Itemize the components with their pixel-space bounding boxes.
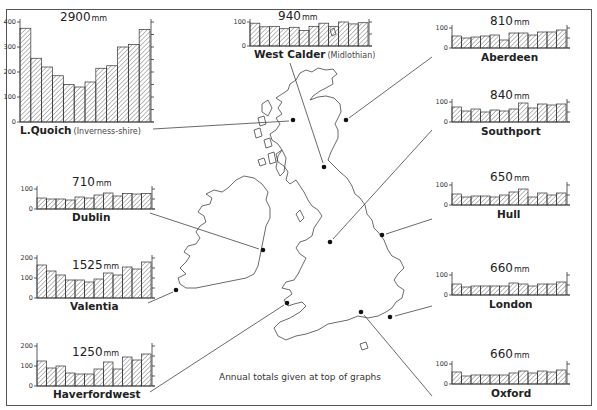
station-label-westcalder: West Calder(Midlothian): [254, 48, 375, 60]
station-label-oxford: Oxford: [491, 387, 531, 399]
station-name: Dublin: [72, 211, 110, 223]
unit-label: mm: [302, 13, 318, 22]
annual-total-oxford: 660mm: [490, 347, 530, 361]
unit-label: mm: [514, 18, 530, 27]
station-label-dublin: Dublin: [72, 211, 110, 223]
annual-total-value: 2900: [60, 10, 91, 24]
annual-total-value: 940: [278, 9, 301, 23]
dot-aberdeen: [344, 118, 349, 123]
annual-total-aberdeen: 810mm: [490, 14, 530, 28]
unit-label: mm: [514, 174, 530, 183]
leader-london: [395, 306, 432, 316]
station-name: London: [489, 298, 533, 310]
leader-aberdeen: [349, 57, 432, 118]
station-name: West Calder: [254, 48, 325, 60]
annual-total-hull: 650mm: [490, 170, 530, 184]
annual-total-westcalder: 940mm: [278, 9, 318, 23]
leader-hull: [386, 219, 432, 234]
annual-total-value: 810: [490, 14, 513, 28]
annual-total-southport: 840mm: [490, 88, 530, 102]
annual-total-value: 660: [490, 261, 513, 275]
leader-southport: [333, 130, 432, 239]
station-region: (Inverness-shire): [74, 127, 141, 136]
annual-total-value: 710: [72, 175, 95, 189]
station-label-london: London: [489, 298, 533, 310]
unit-label: mm: [514, 92, 530, 101]
leader-valentia: [148, 292, 173, 303]
station-name: Southport: [481, 125, 541, 137]
leader-lquoich: [153, 121, 289, 129]
station-name: Valentia: [70, 300, 119, 312]
station-name: Haverfordwest: [53, 388, 141, 400]
station-name: Oxford: [491, 387, 531, 399]
annual-total-lquoich: 2900mm: [60, 10, 107, 24]
annual-total-london: 660mm: [490, 261, 530, 275]
unit-label: mm: [96, 179, 112, 188]
station-label-lquoich: L.Quoich(Inverness-shire): [20, 124, 141, 136]
unit-label: mm: [104, 349, 120, 358]
dot-haverfordwest: [285, 301, 290, 306]
unit-label: mm: [92, 14, 108, 23]
annual-total-value: 650: [490, 170, 513, 184]
unit-label: mm: [514, 351, 530, 360]
dot-lquoich: [291, 118, 296, 123]
dot-hull: [380, 233, 385, 238]
station-label-hull: Hull: [497, 208, 520, 220]
ireland-outline: [178, 176, 270, 288]
great-britain-outline: [270, 68, 404, 340]
annual-total-value: 1525: [72, 258, 103, 272]
station-label-aberdeen: Aberdeen: [481, 51, 538, 63]
annual-total-value: 840: [490, 88, 513, 102]
dot-southport: [328, 240, 333, 245]
station-label-valentia: Valentia: [70, 300, 119, 312]
caption-note: Annual totals given at top of graphs: [219, 372, 381, 382]
dot-london: [388, 315, 393, 320]
annual-total-haverfordwest: 1250mm: [72, 345, 119, 359]
leader-westcalder: [290, 63, 323, 163]
station-label-haverfordwest: Haverfordwest: [53, 388, 141, 400]
station-label-southport: Southport: [481, 125, 541, 137]
station-name: Hull: [497, 208, 520, 220]
dot-westcalder: [322, 165, 327, 170]
annual-total-dublin: 710mm: [72, 175, 112, 189]
station-name: L.Quoich: [20, 124, 72, 136]
annual-total-value: 660: [490, 347, 513, 361]
station-region: (Midlothian): [327, 51, 375, 60]
dot-dublin: [261, 248, 266, 253]
station-name: Aberdeen: [481, 51, 538, 63]
leader-oxford: [364, 315, 432, 396]
unit-label: mm: [514, 265, 530, 274]
dot-oxford: [359, 310, 364, 315]
annual-total-valentia: 1525mm: [72, 258, 119, 272]
dot-valentia: [174, 288, 179, 293]
unit-label: mm: [104, 262, 120, 271]
annual-total-value: 1250: [72, 345, 103, 359]
